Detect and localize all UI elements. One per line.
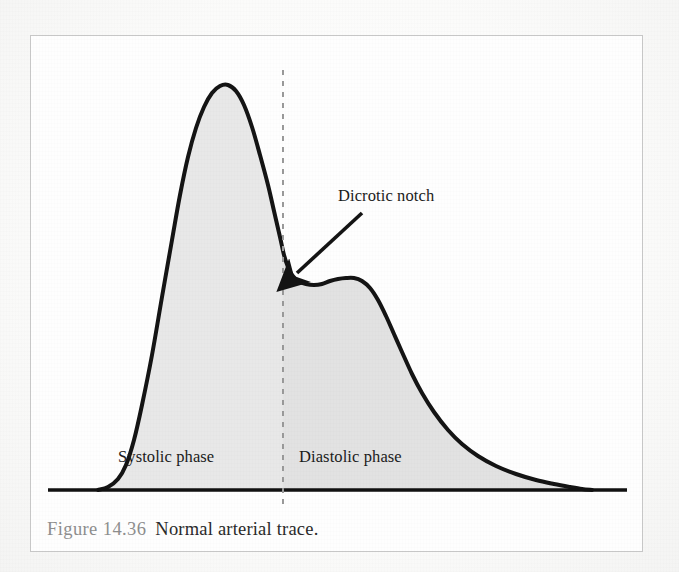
figure-caption-text: Normal arterial trace. xyxy=(155,519,318,539)
figure-page: Systolic phase Diastolic phase Dicrotic … xyxy=(0,0,679,572)
figure-caption: Figure 14.36Normal arterial trace. xyxy=(47,519,318,539)
dicrotic-notch-arrow xyxy=(297,213,362,273)
arterial-trace-svg xyxy=(30,35,643,505)
diastolic-phase-label: Diastolic phase xyxy=(299,447,402,467)
systolic-phase-label: Systolic phase xyxy=(118,447,214,467)
figure-number: Figure 14.36 xyxy=(47,519,146,539)
arterial-trace-plot xyxy=(30,35,643,505)
dicrotic-notch-label: Dicrotic notch xyxy=(338,186,434,206)
